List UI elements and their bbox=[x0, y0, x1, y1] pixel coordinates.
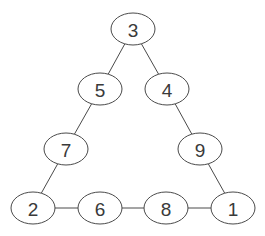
node-4: 4 bbox=[145, 73, 189, 105]
node-label: 6 bbox=[95, 199, 106, 220]
triangle-diagram: 354792681 bbox=[0, 0, 265, 236]
node-8: 8 bbox=[144, 192, 188, 224]
node-7: 7 bbox=[44, 133, 88, 165]
node-label: 8 bbox=[161, 199, 172, 220]
nodes: 354792681 bbox=[11, 13, 255, 224]
node-3: 3 bbox=[111, 13, 155, 45]
node-5: 5 bbox=[78, 73, 122, 105]
node-label: 4 bbox=[162, 80, 173, 101]
node-label: 1 bbox=[228, 199, 239, 220]
node-2: 2 bbox=[11, 192, 55, 224]
node-label: 2 bbox=[28, 199, 39, 220]
edges bbox=[33, 29, 233, 208]
node-label: 7 bbox=[61, 140, 72, 161]
node-label: 3 bbox=[128, 20, 139, 41]
node-label: 5 bbox=[95, 80, 106, 101]
node-label: 9 bbox=[195, 140, 206, 161]
node-6: 6 bbox=[78, 192, 122, 224]
node-1: 1 bbox=[211, 192, 255, 224]
node-9: 9 bbox=[178, 133, 222, 165]
